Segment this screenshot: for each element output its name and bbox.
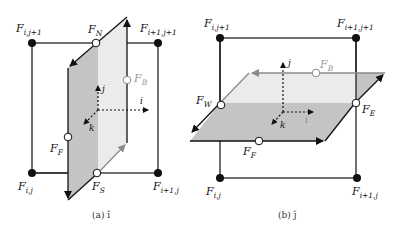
label-f-w: FW [195,94,213,109]
figure-b: j i k Fi,j+1 Fi+1,j+1 Fi,j Fi+1,j FB FW … [190,17,385,220]
corner-node [352,34,360,42]
corner-node [216,174,224,182]
corner-node [28,169,36,177]
label-f-i1-j1: Fi+1,j+1 [139,22,177,37]
corner-node [216,34,224,42]
figure-canvas: j i k Fi,j+1 Fi+1,j+1 Fi,j Fi+1,j FN FB … [0,0,399,235]
corner-node [28,39,36,47]
i-axis-label: i [305,115,308,125]
label-f-i-j: Fi,j [17,180,33,195]
plane-light-face [98,17,127,173]
label-f-i-j1: Fi,j+1 [15,22,42,37]
figure-a: j i k Fi,j+1 Fi+1,j+1 Fi,j Fi+1,j FN FB … [15,17,179,220]
label-f-i1-j: Fi+1,j [152,180,179,195]
k-axis-label: k [89,123,94,133]
corner-node [154,39,162,47]
label-f-i-j: Fi,j [205,185,221,200]
face-node-back [123,76,131,84]
face-node-back [312,69,320,77]
corner-node [154,169,162,177]
k-axis-label: k [280,120,285,130]
caption-a: (a) î [92,210,110,220]
face-node-west [217,101,225,109]
label-f-s: FS [91,180,105,195]
label-f-n: FN [87,23,103,38]
face-node-front [255,137,263,145]
label-f-b: FB [319,58,334,73]
face-node-north [92,39,100,47]
label-f-e: FE [361,103,376,118]
label-f-i1-j1: Fi+1,j+1 [336,17,374,32]
face-node-front [64,133,72,141]
label-f-b: FB [133,72,148,87]
caption-b: (b) ĵ [278,210,297,220]
label-f-i1-j: Fi+1,j [351,185,378,200]
label-f-f: FF [49,142,64,157]
corner-node [353,174,361,182]
i-axis-label: i [140,96,143,106]
face-node-east [352,99,360,107]
label-f-i-j1: Fi,j+1 [203,17,230,32]
label-f-f: FF [242,145,257,160]
j-axis-label: j [286,58,291,68]
face-node-south [93,169,101,177]
